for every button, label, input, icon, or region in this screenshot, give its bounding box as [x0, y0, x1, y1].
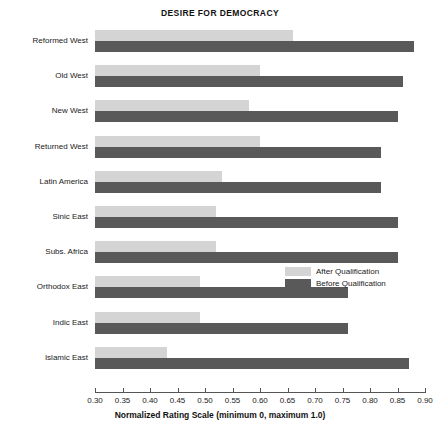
- bar-before: [95, 147, 381, 158]
- bar-before: [95, 41, 414, 52]
- bar-after: [95, 100, 249, 111]
- bar-after: [95, 206, 216, 217]
- legend-item: Before Qualification: [285, 278, 435, 289]
- bar-before: [95, 358, 409, 369]
- bar-before: [95, 111, 398, 122]
- x-axis-tick: [233, 388, 234, 393]
- bar-after: [95, 312, 200, 323]
- legend-swatch-before: [285, 279, 311, 288]
- x-axis-tick: [288, 388, 289, 393]
- category-label: Returned West: [0, 142, 88, 151]
- x-axis-tick: [343, 388, 344, 393]
- x-axis-tick: [123, 388, 124, 393]
- category-label: Sinic East: [0, 212, 88, 221]
- bar-before: [95, 252, 398, 263]
- category-label: Subs. Africa: [0, 247, 88, 256]
- legend-item: After Qualification: [285, 266, 435, 277]
- category-label: New West: [0, 106, 88, 115]
- bar-before: [95, 76, 403, 87]
- category-label: Reformed West: [0, 36, 88, 45]
- plot-area: [95, 28, 425, 386]
- x-axis-title: Normalized Rating Scale (minimum 0, maxi…: [0, 410, 440, 420]
- x-axis-tick: [315, 388, 316, 393]
- category-label: Indic East: [0, 318, 88, 327]
- x-axis-tick: [260, 388, 261, 393]
- category-label: Islamic East: [0, 353, 88, 362]
- bar-after: [95, 65, 260, 76]
- legend-label: Before Qualification: [316, 278, 386, 289]
- bar-after: [95, 347, 167, 358]
- chart-container: DESIRE FOR DEMOCRACY Reformed WestOld We…: [0, 0, 440, 442]
- bar-after: [95, 136, 260, 147]
- category-label: Latin America: [0, 177, 88, 186]
- bar-after: [95, 171, 222, 182]
- bar-after: [95, 30, 293, 41]
- chart-title: DESIRE FOR DEMOCRACY: [0, 8, 440, 18]
- x-axis-tick: [370, 388, 371, 393]
- bar-before: [95, 323, 348, 334]
- category-label: Orthodox East: [0, 282, 88, 291]
- category-label: Old West: [0, 71, 88, 80]
- x-axis-tick: [205, 388, 206, 393]
- chart-legend: After QualificationBefore Qualification: [285, 266, 435, 290]
- legend-label: After Qualification: [316, 266, 379, 277]
- bar-after: [95, 276, 200, 287]
- bar-before: [95, 182, 381, 193]
- x-axis-tick: [95, 388, 96, 393]
- x-axis-tick: [425, 388, 426, 393]
- bar-before: [95, 217, 398, 228]
- x-axis-tick: [150, 388, 151, 393]
- x-axis-tick: [398, 388, 399, 393]
- legend-swatch-after: [285, 267, 311, 276]
- x-axis-tick-label: 0.90: [405, 396, 440, 405]
- bar-after: [95, 241, 216, 252]
- x-axis-tick: [178, 388, 179, 393]
